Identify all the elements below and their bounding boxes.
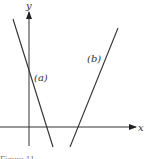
figure-caption: Figure 11 bbox=[0, 154, 34, 159]
line-b-label: (b) bbox=[87, 53, 101, 64]
line-b bbox=[70, 28, 118, 147]
figure-graph: y x (a) (b) Figure 11 bbox=[0, 0, 148, 159]
line-a-label: (a) bbox=[34, 72, 48, 83]
line-a bbox=[13, 19, 53, 147]
y-axis-label: y bbox=[25, 0, 32, 11]
x-axis-label: x bbox=[138, 122, 144, 133]
